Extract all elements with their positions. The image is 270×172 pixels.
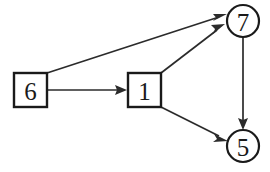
- edge-6-to-1: [47, 85, 127, 95]
- node-7[interactable]: 7: [227, 5, 259, 37]
- diagram-canvas: 6 1 7 5: [0, 0, 270, 172]
- edge-1-to-5-line: [161, 107, 219, 136]
- node-5-label: 5: [237, 134, 250, 161]
- node-1[interactable]: 1: [128, 73, 161, 107]
- edge-1-to-7: [161, 24, 225, 73]
- node-6-label: 6: [24, 78, 37, 105]
- node-1-label: 1: [138, 78, 151, 105]
- edge-1-to-5: [161, 107, 228, 142]
- graph-svg: 6 1 7 5: [0, 0, 270, 172]
- node-7-label: 7: [237, 9, 250, 36]
- node-5[interactable]: 5: [227, 130, 259, 162]
- edge-1-to-5-arrowhead: [213, 134, 228, 142]
- edge-6-to-7-line: [47, 17, 219, 73]
- node-6[interactable]: 6: [14, 73, 47, 107]
- edge-1-to-7-line: [161, 30, 217, 73]
- edge-7-to-5: [238, 37, 248, 130]
